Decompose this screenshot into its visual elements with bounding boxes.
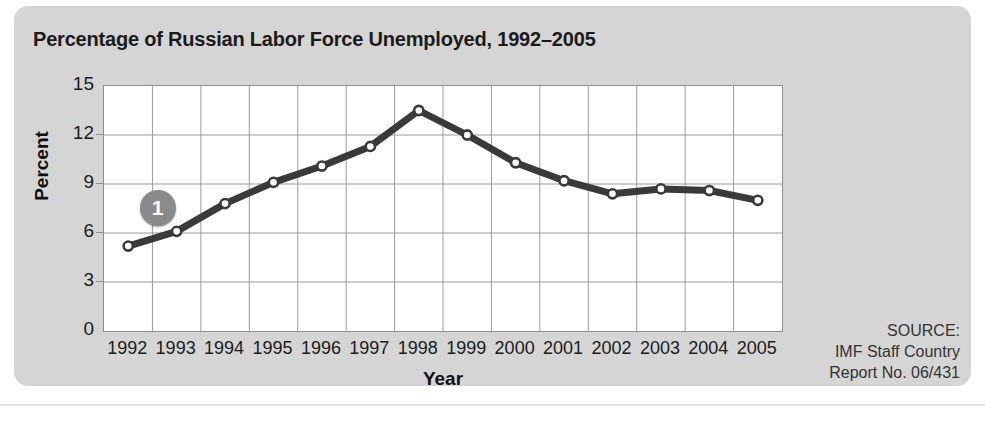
data-point-marker <box>269 178 278 187</box>
source-note: SOURCE: IMF Staff Country Report No. 06/… <box>800 320 960 383</box>
source-line-3: Report No. 06/431 <box>800 362 960 383</box>
data-point-marker <box>656 184 665 193</box>
bottom-divider <box>0 404 985 406</box>
data-point-marker <box>753 196 762 205</box>
y-tick-label: 15 <box>54 73 94 95</box>
x-tick-label: 2005 <box>729 338 785 359</box>
y-tick-label: 3 <box>54 269 94 291</box>
data-point-marker <box>511 158 520 167</box>
data-point-marker <box>317 161 326 170</box>
plot-area <box>103 85 783 332</box>
data-point-marker <box>705 186 714 195</box>
y-tick-label: 12 <box>54 122 94 144</box>
data-point-marker <box>172 227 181 236</box>
data-point-marker <box>124 241 133 250</box>
y-tick-mark <box>96 232 103 233</box>
y-tick-label: 9 <box>54 171 94 193</box>
data-point-marker <box>608 189 617 198</box>
y-tick-label: 0 <box>54 318 94 340</box>
data-point-marker <box>220 199 229 208</box>
x-axis-title: Year <box>103 368 783 390</box>
callout-badge-1: 1 <box>140 190 176 226</box>
y-tick-mark <box>96 183 103 184</box>
y-tick-mark <box>96 134 103 135</box>
data-point-marker <box>366 142 375 151</box>
data-point-marker <box>463 130 472 139</box>
plot-svg <box>104 86 782 331</box>
source-line-2: IMF Staff Country <box>800 341 960 362</box>
source-line-1: SOURCE: <box>800 320 960 341</box>
data-point-marker <box>414 106 423 115</box>
y-axis-ticks: 03691215 <box>50 85 94 332</box>
chart-title: Percentage of Russian Labor Force Unempl… <box>33 28 596 51</box>
data-point-marker <box>559 176 568 185</box>
x-axis-ticks: 1992199319941995199619971998199920002001… <box>103 338 783 364</box>
y-tick-mark <box>96 281 103 282</box>
figure-root: Percentage of Russian Labor Force Unempl… <box>0 0 985 435</box>
y-tick-label: 6 <box>54 220 94 242</box>
